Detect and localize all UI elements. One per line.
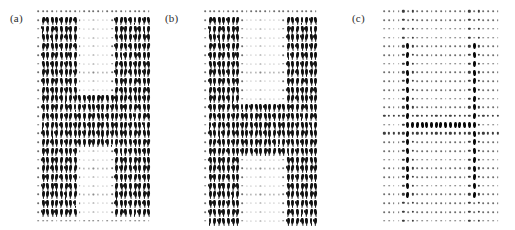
vector-arrow-glyph [222, 113, 225, 119]
background-dot-glyph [464, 141, 466, 143]
vector-arrow-glyph [305, 60, 308, 66]
edge-marker-glyph [454, 122, 457, 128]
background-dot-glyph [483, 19, 485, 21]
vector-arrow-glyph [213, 34, 216, 40]
vector-arrow-glyph [314, 165, 317, 171]
vector-arrow-glyph [236, 26, 239, 32]
vector-arrow-glyph [296, 130, 299, 136]
background-dot-glyph [102, 63, 103, 64]
background-dot-glyph [98, 203, 99, 204]
vector-arrow-glyph [227, 200, 230, 206]
vector-arrow-glyph [92, 95, 95, 101]
vector-arrow-glyph [69, 78, 72, 84]
grid-cell [313, 216, 318, 225]
vector-arrow-glyph [129, 157, 132, 163]
vector-arrow-glyph [222, 139, 225, 145]
edge-marker-glyph [463, 122, 467, 128]
background-dot-glyph [107, 72, 108, 73]
background-dot-glyph [468, 19, 470, 21]
background-dot-glyph [384, 194, 386, 196]
vector-arrow-glyph [55, 200, 58, 206]
background-dot-glyph [445, 54, 447, 56]
vector-arrow-glyph [74, 183, 77, 189]
background-dot-glyph [440, 37, 442, 39]
vector-arrow-glyph [41, 139, 44, 145]
vector-arrow-glyph [222, 121, 225, 127]
background-dot-glyph [450, 80, 452, 82]
background-dot-glyph [255, 19, 256, 20]
background-dot-glyph [483, 194, 485, 196]
background-dot-glyph [450, 220, 452, 222]
background-dot-glyph [283, 159, 285, 161]
vector-arrow-glyph [60, 95, 63, 101]
vector-arrow-glyph [55, 26, 58, 32]
background-dot-glyph [88, 220, 90, 222]
vector-arrow-glyph [314, 209, 317, 215]
vector-arrow-glyph [213, 78, 216, 84]
vector-arrow-glyph [231, 174, 234, 180]
background-dot-glyph [450, 141, 452, 143]
vector-arrow-glyph [69, 34, 72, 40]
vector-arrow-glyph [301, 139, 304, 145]
grid-cell [146, 51, 151, 60]
background-dot-glyph [388, 11, 390, 13]
vector-arrow-glyph [69, 60, 72, 66]
background-dot-glyph [435, 132, 437, 134]
vector-arrow-glyph [129, 43, 132, 49]
background-dot-glyph [407, 11, 409, 13]
background-dot-glyph [388, 19, 390, 21]
vector-arrow-glyph [42, 95, 45, 101]
vector-arrow-glyph [55, 165, 58, 171]
background-dot-glyph [98, 176, 99, 177]
vector-arrow-glyph [291, 87, 294, 93]
background-dot-glyph [393, 72, 395, 74]
vector-arrow-glyph [291, 183, 294, 189]
background-dot-glyph [412, 80, 414, 82]
background-dot-glyph [412, 158, 414, 160]
background-dot-glyph [402, 158, 404, 160]
vector-arrow-glyph [310, 52, 313, 58]
vector-arrow-glyph [291, 217, 294, 223]
vector-arrow-glyph [218, 183, 221, 189]
background-dot-glyph [88, 185, 89, 186]
vector-arrow-glyph [300, 69, 303, 75]
background-dot-glyph [283, 211, 285, 213]
background-dot-glyph [274, 81, 275, 82]
background-dot-glyph [241, 98, 243, 100]
background-dot-glyph [483, 220, 485, 222]
vector-arrow-glyph [51, 148, 54, 154]
vector-arrow-glyph [301, 209, 304, 215]
background-dot-glyph [435, 28, 437, 30]
grid-cell [313, 190, 318, 199]
vector-arrow-glyph [51, 183, 54, 189]
background-dot-glyph [88, 203, 89, 204]
background-dot-glyph [464, 63, 466, 65]
background-dot-glyph [255, 81, 256, 82]
vector-arrow-glyph [296, 69, 299, 75]
background-dot-glyph [487, 45, 489, 47]
background-dot-glyph [478, 45, 480, 47]
background-dot-glyph [454, 211, 456, 213]
background-dot-glyph [398, 220, 400, 222]
background-dot-glyph [459, 141, 461, 143]
background-dot-glyph [492, 141, 494, 143]
background-dot-glyph [417, 202, 419, 204]
background-dot-glyph [478, 124, 480, 126]
edge-marker-glyph [425, 122, 428, 128]
background-dot-glyph [445, 19, 447, 21]
background-dot-glyph [426, 80, 428, 82]
background-dot-glyph [492, 159, 494, 161]
background-dot-glyph [37, 28, 39, 30]
vector-arrow-glyph [51, 174, 54, 180]
vector-arrow-glyph [60, 87, 63, 93]
vector-arrow-glyph [310, 95, 313, 101]
background-dot-glyph [204, 202, 206, 204]
background-dot-glyph [107, 28, 108, 29]
background-dot-glyph [440, 141, 442, 143]
background-dot-glyph [445, 150, 447, 152]
background-dot-glyph [478, 132, 480, 134]
background-dot-glyph [283, 54, 285, 56]
background-dot-glyph [440, 211, 442, 213]
background-dot-glyph [93, 63, 94, 64]
background-dot-glyph [431, 141, 433, 143]
